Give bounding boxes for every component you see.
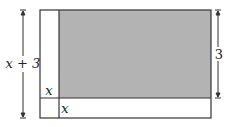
inner-corner-x-label: x	[45, 83, 53, 98]
area-diagram: x + 3 3 x x	[0, 0, 231, 127]
right-dimension-label: 3	[215, 47, 223, 62]
left-dimension-label: x + 3	[6, 56, 41, 71]
bottom-strip-x-label: x	[61, 101, 69, 116]
shaded-rectangle	[59, 10, 211, 98]
